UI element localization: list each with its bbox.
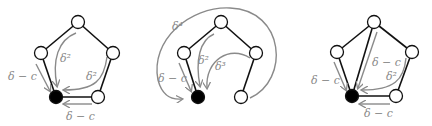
label-diagonal: δ − c — [372, 56, 401, 69]
node — [390, 90, 403, 103]
label-inner-right: δ² — [86, 70, 97, 83]
edges — [41, 22, 113, 97]
node — [406, 46, 419, 59]
node — [92, 91, 105, 104]
label-left-arrow: δ − c — [8, 70, 37, 83]
node — [178, 47, 191, 60]
node — [72, 16, 85, 29]
label-inner-top: δ² — [60, 52, 71, 65]
node — [368, 16, 381, 29]
label-bottom-arrow: δ − c — [364, 107, 393, 120]
label-inner-right: δ² — [386, 70, 397, 83]
label-bottom-arrow: δ − c — [66, 110, 95, 123]
label-left-arrow: δ − c — [311, 74, 340, 87]
root-node — [346, 90, 359, 103]
root-node — [50, 91, 63, 104]
label-left-arrow: δ − c — [158, 72, 187, 85]
node — [215, 16, 228, 29]
node — [235, 91, 248, 104]
root-node — [192, 91, 205, 104]
panel-right: δ − c δ − c δ² δ − c — [311, 16, 419, 121]
panel-middle: δ⁴ δ − c δ² δ³ — [157, 8, 276, 104]
node — [35, 47, 48, 60]
node — [331, 46, 344, 59]
label-inner-top: δ² — [198, 54, 209, 67]
label-outer-arc: δ⁴ — [172, 20, 183, 33]
graph-figure: δ − c δ² δ² δ − c δ⁴ δ − c δ² δ³ — [0, 0, 432, 126]
node — [107, 47, 120, 60]
node — [250, 47, 263, 60]
panel-left: δ − c δ² δ² δ − c — [8, 16, 120, 124]
label-inner-right: δ³ — [215, 60, 226, 73]
